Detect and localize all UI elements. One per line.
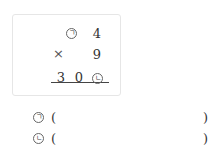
answer-a-input[interactable]	[59, 110, 199, 126]
answer-b-label: ㄴ	[33, 133, 44, 144]
multiplicand-ones-digit: 4	[91, 27, 103, 41]
answer-b-input[interactable]	[59, 131, 199, 147]
open-paren: (	[51, 131, 56, 147]
multiplication-problem-box: ㄱ 4 × 9 3 0 ㄴ	[12, 14, 121, 96]
open-paren: (	[51, 110, 56, 126]
product-tens-digit: 0	[73, 71, 85, 85]
product-hundreds-digit: 3	[55, 71, 67, 85]
close-paren: )	[203, 110, 208, 126]
unknown-b-marker: ㄴ	[92, 73, 103, 84]
answer-a-label: ㄱ	[33, 112, 44, 123]
unknown-a-marker: ㄱ	[66, 28, 77, 39]
close-paren: )	[203, 131, 208, 147]
multiplier-digit: 9	[91, 48, 103, 62]
multiply-sign: ×	[53, 46, 64, 61]
